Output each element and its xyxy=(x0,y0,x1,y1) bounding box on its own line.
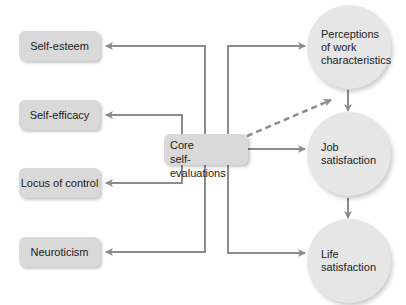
node-label-line1: Perceptions xyxy=(321,28,391,41)
node-label-line1: Job xyxy=(321,141,391,154)
edge-core-to-perceptions xyxy=(228,46,305,135)
node-label-line1: Life xyxy=(321,248,391,261)
node-core-self-evaluations: Core self-evaluations xyxy=(164,134,248,165)
node-perceptions-of-work-characteristics: Perceptions of work characteristics xyxy=(307,5,391,89)
node-label-line2: satisfaction xyxy=(321,154,391,167)
node-label-line1: Core xyxy=(170,138,242,152)
node-label-line2: satisfaction xyxy=(321,261,391,274)
node-job-satisfaction: Job satisfaction xyxy=(307,112,391,196)
node-label-line2: of work xyxy=(321,41,391,54)
node-locus-of-control: Locus of control xyxy=(19,168,100,198)
node-label-line3: characteristics xyxy=(321,54,391,67)
node-label: Self-efficacy xyxy=(30,109,90,121)
node-label-line2: self-evaluations xyxy=(170,152,242,180)
node-label: Self-esteem xyxy=(30,40,89,52)
node-label: Neuroticism xyxy=(30,246,88,258)
edge-core-to-self-esteem xyxy=(106,46,205,135)
node-label: Locus of control xyxy=(21,177,99,189)
node-self-esteem: Self-esteem xyxy=(19,31,100,61)
edge-core-to-self-efficacy xyxy=(106,115,182,135)
node-life-satisfaction: Life satisfaction xyxy=(307,219,391,303)
node-self-efficacy: Self-efficacy xyxy=(19,100,100,130)
node-neuroticism: Neuroticism xyxy=(19,237,100,267)
